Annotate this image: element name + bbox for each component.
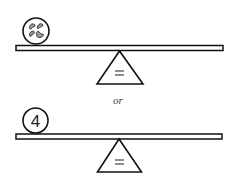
top-scale bbox=[16, 18, 223, 84]
bottom-scale: 4 bbox=[16, 108, 222, 172]
bean-circle bbox=[23, 18, 49, 44]
number-label: 4 bbox=[31, 112, 40, 131]
fulcrum-triangle bbox=[97, 51, 143, 84]
or-connector: or bbox=[113, 94, 123, 106]
fulcrum-triangle bbox=[98, 139, 142, 172]
